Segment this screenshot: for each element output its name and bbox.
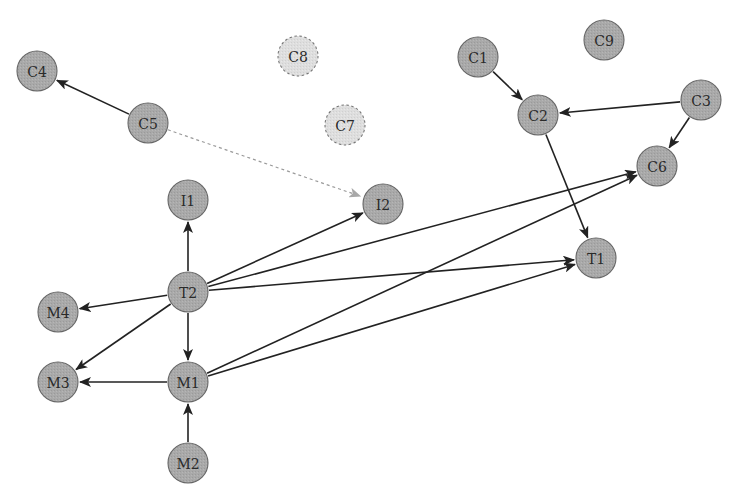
node-c8[interactable]: C8 xyxy=(278,36,318,76)
node-c1[interactable]: C1 xyxy=(458,37,498,77)
node-i1[interactable]: I1 xyxy=(168,180,208,220)
node-label: C4 xyxy=(27,64,47,80)
edge-m1-to-c6 xyxy=(207,175,637,373)
node-c7[interactable]: C7 xyxy=(325,105,365,145)
dependency-graph: C1C2C3C4C5C6C7C8C9I1I2T1T2M1M2M3M4 xyxy=(0,0,739,496)
nodes-layer: C1C2C3C4C5C6C7C8C9I1I2T1T2M1M2M3M4 xyxy=(17,20,721,483)
edge-t2-to-m3 xyxy=(76,304,171,370)
node-t1[interactable]: T1 xyxy=(576,238,616,278)
edge-t2-to-i2 xyxy=(207,213,363,283)
node-label: C9 xyxy=(594,33,614,49)
node-m1[interactable]: M1 xyxy=(168,362,208,402)
node-label: M4 xyxy=(46,305,69,321)
node-m4[interactable]: M4 xyxy=(38,292,78,332)
node-c4[interactable]: C4 xyxy=(17,51,57,91)
node-c6[interactable]: C6 xyxy=(637,146,677,186)
node-label: C7 xyxy=(335,118,355,134)
edge-c3-to-c2 xyxy=(560,102,680,113)
node-label: M3 xyxy=(46,375,69,391)
edge-c5-to-c4 xyxy=(57,80,129,114)
node-label: M2 xyxy=(176,456,199,472)
edge-t2-to-m4 xyxy=(80,295,168,309)
node-label: C3 xyxy=(691,93,711,109)
node-m2[interactable]: M2 xyxy=(168,443,208,483)
node-c2[interactable]: C2 xyxy=(518,95,558,135)
node-label: M1 xyxy=(176,375,199,391)
edge-m1-to-t1 xyxy=(208,264,575,376)
node-i2[interactable]: I2 xyxy=(363,184,403,224)
node-m3[interactable]: M3 xyxy=(38,362,78,402)
node-label: C6 xyxy=(647,159,667,175)
node-label: I1 xyxy=(181,193,195,209)
node-label: C8 xyxy=(288,49,308,65)
node-label: I2 xyxy=(376,197,390,213)
node-label: C1 xyxy=(468,50,488,66)
node-label: C5 xyxy=(138,116,158,132)
edge-c3-to-c6 xyxy=(669,118,689,148)
node-c5[interactable]: C5 xyxy=(128,103,168,143)
node-t2[interactable]: T2 xyxy=(168,272,208,312)
edge-t2-to-t1 xyxy=(209,260,574,291)
graph-canvas: C1C2C3C4C5C6C7C8C9I1I2T1T2M1M2M3M4 xyxy=(0,0,739,496)
node-c3[interactable]: C3 xyxy=(681,80,721,120)
node-label: T2 xyxy=(179,285,197,301)
edge-t2-to-c6 xyxy=(208,172,636,287)
edge-c1-to-c2 xyxy=(493,72,522,100)
node-label: T1 xyxy=(587,251,605,267)
node-c9[interactable]: C9 xyxy=(584,20,624,60)
node-label: C2 xyxy=(528,108,548,124)
